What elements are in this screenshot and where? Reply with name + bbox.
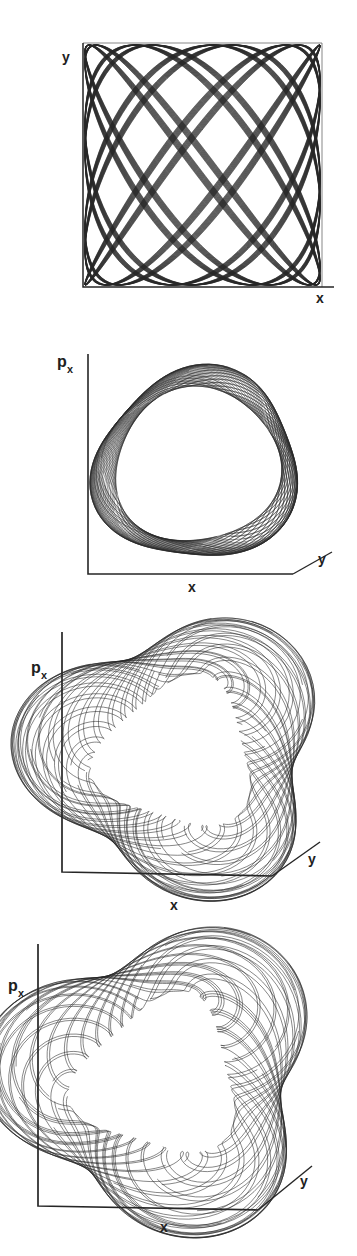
panel-c-torus-winding bbox=[43, 619, 314, 866]
panel-d-plot-area bbox=[0, 938, 357, 1256]
panel-b-px-base: p bbox=[57, 353, 67, 370]
panel-d-torus-winding bbox=[14, 964, 286, 1238]
panel-c-torus-winding bbox=[25, 621, 313, 863]
panel-c-torus: px x y bbox=[0, 620, 357, 938]
panel-c-torus-winding bbox=[27, 659, 294, 897]
panel-b-plot-area bbox=[0, 318, 357, 618]
panel-b-px-subscript: x bbox=[67, 363, 73, 375]
panel-b-y-axis-label: y bbox=[318, 552, 326, 566]
panel-a-plot-area bbox=[0, 0, 357, 310]
panel-a-lissajous: y x bbox=[0, 0, 357, 310]
panel-c-px-base: p bbox=[31, 659, 41, 676]
panel-d-torus: px x y bbox=[0, 938, 357, 1256]
panel-b-x-axis-label: x bbox=[188, 580, 196, 594]
panel-d-torus-winding bbox=[22, 927, 305, 1219]
panel-b-torus-winding bbox=[114, 365, 283, 555]
panel-d-x-axis-label: x bbox=[160, 1220, 168, 1234]
panel-b-torus-winding bbox=[102, 375, 295, 554]
figure-container: y x px x y px x y px x y bbox=[0, 0, 357, 1256]
panel-c-torus-winding bbox=[13, 636, 305, 839]
panel-c-px-axis-label: px bbox=[31, 660, 47, 679]
panel-d-torus-winding bbox=[0, 979, 281, 1201]
axes-y-oblique bbox=[293, 552, 332, 574]
panel-b-torus-winding bbox=[95, 381, 297, 550]
panel-a-y-axis-label: y bbox=[62, 50, 70, 64]
panel-c-plot-area bbox=[0, 620, 357, 938]
panel-d-px-subscript: x bbox=[18, 987, 24, 999]
panel-d-y-axis-label: y bbox=[300, 1174, 308, 1188]
panel-b-px-axis-label: px bbox=[57, 354, 73, 373]
panel-a-x-axis-label: x bbox=[316, 291, 324, 305]
panel-c-x-axis-label: x bbox=[170, 898, 178, 912]
panel-b-torus: px x y bbox=[0, 318, 357, 618]
panel-b-torus-winding bbox=[91, 384, 297, 543]
panel-c-y-axis-label: y bbox=[308, 852, 316, 866]
panel-d-px-axis-label: px bbox=[8, 978, 24, 997]
panel-c-px-subscript: x bbox=[41, 669, 47, 681]
panel-b-torus-winding bbox=[96, 380, 297, 551]
panel-d-px-base: p bbox=[8, 977, 18, 994]
